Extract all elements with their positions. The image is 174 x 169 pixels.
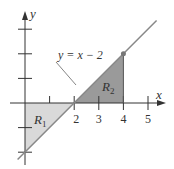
x-tick-label-5: 5 [145,112,151,126]
curve-line [18,21,157,160]
region-r1-name: R [33,112,42,127]
highlight-point [121,51,126,56]
region-r1-sub: 1 [42,119,47,129]
x-tick-label-3: 3 [96,112,102,126]
curve-label-leader [56,62,76,85]
diagram: y x y = x − 2 R1 R2 2345 [0,0,174,169]
curve-label: y = x − 2 [57,48,103,62]
region-r2-sub: 2 [110,86,115,96]
x-tick-label-2: 2 [73,112,79,126]
region-r2-name: R [101,79,110,94]
x-tick-label-4: 4 [120,112,126,126]
x-axis-label: x [155,87,162,102]
y-axis-label: y [28,6,36,21]
y-axis-arrow-icon [22,11,28,20]
